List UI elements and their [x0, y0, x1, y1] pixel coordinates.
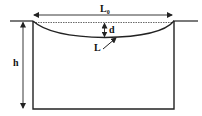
curve-length-label: L	[94, 42, 101, 53]
sagging-membrane-diagram: L0 d L h	[0, 0, 202, 116]
height-label: h	[13, 57, 19, 68]
curve-length-pointer-arrow	[103, 38, 116, 49]
container-outline	[33, 21, 174, 109]
span-label: L0	[100, 3, 110, 15]
sag-curve	[33, 21, 174, 38]
depth-label: d	[109, 24, 115, 35]
